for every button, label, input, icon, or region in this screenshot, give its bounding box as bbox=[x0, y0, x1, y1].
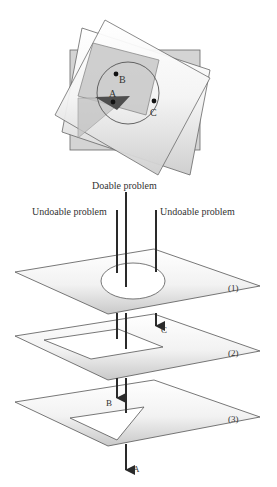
arrow-b-label: B bbox=[106, 398, 112, 408]
arrow-a-label: A bbox=[133, 464, 140, 474]
point-c-label: C bbox=[150, 107, 157, 118]
undoable-problem-right-label: Undoable problem bbox=[160, 206, 235, 217]
layer-3: (3) bbox=[15, 380, 260, 446]
layer-2: (2) bbox=[15, 314, 260, 380]
point-b bbox=[114, 72, 119, 77]
undoable-problem-left-label: Undoable problem bbox=[32, 206, 107, 217]
arrow-c-label: C bbox=[161, 325, 167, 335]
layer-3-label: (3) bbox=[228, 414, 239, 424]
overlapping-rectangles-figure: B A C bbox=[55, 20, 210, 175]
point-a bbox=[111, 100, 116, 105]
layer-1-label: (1) bbox=[228, 283, 239, 293]
layer-2-label: (2) bbox=[228, 348, 239, 358]
diagram-canvas: B A C Doable problem Undoable problem Un… bbox=[0, 0, 277, 487]
point-b-label: B bbox=[119, 74, 126, 85]
layer-1: (1) bbox=[15, 249, 260, 314]
doable-problem-label: Doable problem bbox=[92, 180, 157, 191]
point-a-label: A bbox=[109, 88, 117, 99]
point-c bbox=[152, 99, 157, 104]
